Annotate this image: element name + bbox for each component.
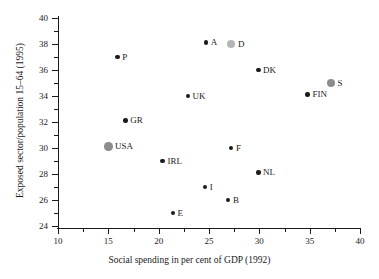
data-point-label-i: I: [210, 183, 213, 192]
x-tick-label: 10: [45, 237, 71, 246]
y-tick-label: 28: [24, 170, 48, 179]
data-point-a: [204, 40, 209, 45]
y-axis-title: Exposed sector/population 15–64 (1995): [15, 15, 26, 227]
data-point-label-fin: FIN: [312, 90, 327, 99]
y-tick-label: 38: [24, 40, 48, 49]
x-tick-major: [360, 228, 361, 234]
data-point-label-usa: USA: [115, 142, 133, 151]
y-tick-label: 30: [24, 144, 48, 153]
x-tick-major: [58, 228, 59, 234]
data-point-p: [115, 55, 120, 60]
x-tick-minor: [134, 228, 135, 232]
y-tick-label: 40: [24, 14, 48, 23]
data-point-label-p: P: [122, 53, 127, 62]
data-point-label-a: A: [211, 38, 218, 47]
data-point-label-d: D: [238, 40, 245, 49]
y-tick-label: 34: [24, 92, 48, 101]
data-point-label-gr: GR: [130, 116, 143, 125]
data-point-label-uk: UK: [193, 92, 206, 101]
x-tick-label: 20: [146, 237, 172, 246]
x-tick-minor: [335, 228, 336, 232]
x-tick-major: [259, 228, 260, 234]
x-tick-label: 40: [347, 237, 373, 246]
y-tick-label: 26: [24, 196, 48, 205]
x-tick-minor: [83, 228, 84, 232]
data-point-label-f: F: [236, 144, 241, 153]
data-point-fin: [305, 92, 310, 97]
x-tick-label: 30: [246, 237, 272, 246]
data-point-label-s: S: [338, 79, 343, 88]
x-tick-major: [209, 228, 210, 234]
y-tick-major: [52, 226, 58, 227]
data-point-nl: [256, 170, 261, 175]
data-point-dk: [256, 68, 261, 73]
x-tick-major: [159, 228, 160, 234]
x-tick-minor: [285, 228, 286, 232]
plot-data-area: [58, 18, 360, 226]
x-tick-minor: [184, 228, 185, 232]
scatter-plot-figure: 242628303234363840 10152025303540 Social…: [0, 0, 379, 279]
x-tick-label: 15: [95, 237, 121, 246]
x-axis-title: Social spending in per cent of GDP (1992…: [0, 255, 379, 266]
data-point-usa: [104, 142, 113, 151]
data-point-label-dk: DK: [263, 66, 276, 75]
y-tick-label: 36: [24, 66, 48, 75]
y-tick-label: 24: [24, 222, 48, 231]
y-tick-label: 32: [24, 118, 48, 127]
data-point-label-nl: NL: [263, 168, 275, 177]
data-point-label-e: E: [178, 209, 184, 218]
x-tick-label: 25: [196, 237, 222, 246]
x-tick-major: [310, 228, 311, 234]
data-point-gr: [123, 118, 128, 123]
x-tick-major: [108, 228, 109, 234]
x-tick-label: 35: [297, 237, 323, 246]
data-point-label-irl: IRL: [167, 157, 182, 166]
x-tick-minor: [234, 228, 235, 232]
data-point-label-b: B: [233, 196, 239, 205]
